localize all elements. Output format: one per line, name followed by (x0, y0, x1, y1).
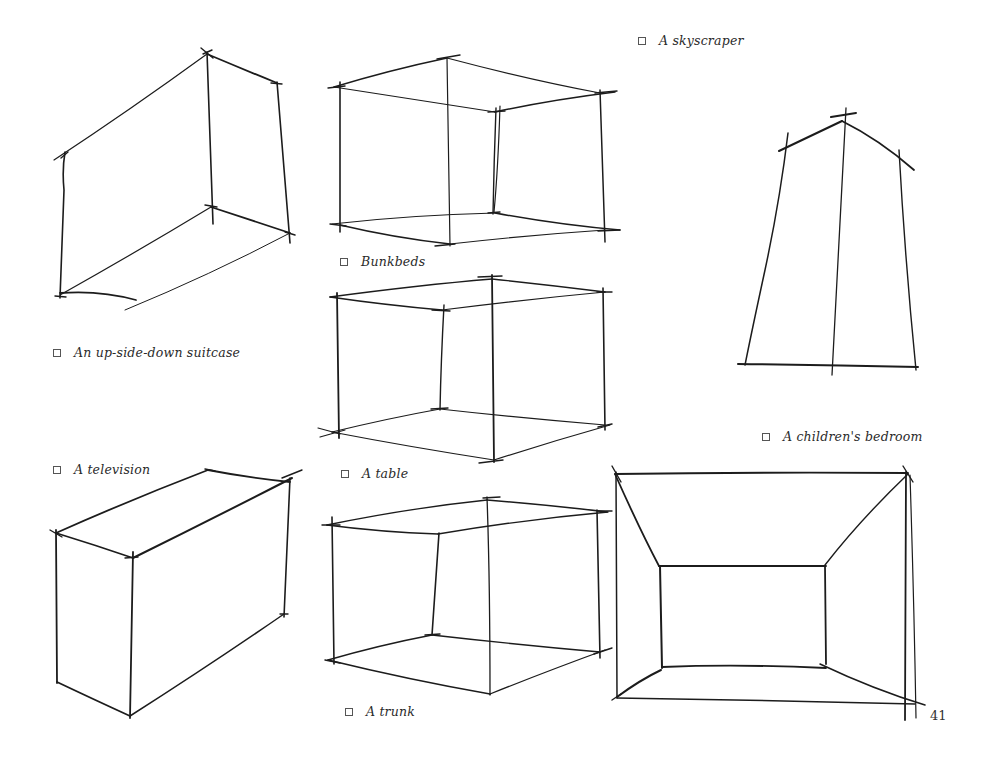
sketch-suitcase-box (54, 48, 295, 310)
item-label: A trunk (366, 704, 415, 719)
sketch-television-box (50, 469, 302, 718)
item-table[interactable]: A table (341, 466, 408, 481)
item-bunkbeds[interactable]: Bunkbeds (340, 254, 425, 269)
sketch-trunk-box (322, 497, 612, 695)
item-label: Bunkbeds (361, 254, 425, 269)
item-suitcase[interactable]: An up-side-down suitcase (53, 345, 240, 360)
sketch-skyscraper (738, 108, 918, 375)
checkbox-icon[interactable] (638, 37, 646, 45)
item-label: A table (362, 466, 408, 481)
item-television[interactable]: A television (53, 462, 150, 477)
checkbox-icon[interactable] (341, 470, 349, 478)
page-number: 41 (930, 708, 947, 723)
checkbox-icon[interactable] (340, 258, 348, 266)
item-trunk[interactable]: A trunk (345, 704, 415, 719)
checkbox-icon[interactable] (762, 433, 770, 441)
item-label: An up-side-down suitcase (74, 345, 240, 360)
item-label: A television (74, 462, 150, 477)
sketch-table-box (318, 275, 612, 463)
sketch-bunkbeds-box (328, 55, 620, 246)
item-label: A children's bedroom (783, 429, 923, 444)
checkbox-icon[interactable] (345, 708, 353, 716)
item-skyscraper[interactable]: A skyscraper (638, 33, 744, 48)
sketches-canvas (0, 0, 998, 777)
item-childrens-bedroom[interactable]: A children's bedroom (762, 429, 923, 444)
item-label: A skyscraper (659, 33, 744, 48)
sketch-bedroom-room (612, 466, 925, 720)
checkbox-icon[interactable] (53, 466, 61, 474)
checkbox-icon[interactable] (53, 349, 61, 357)
